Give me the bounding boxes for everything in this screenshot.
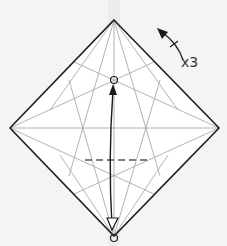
- repeat-arrow-head: [157, 28, 168, 39]
- repeat-arrow: [162, 32, 183, 60]
- origami-diagram: [0, 0, 227, 246]
- repeat-count-label: x3: [181, 54, 198, 70]
